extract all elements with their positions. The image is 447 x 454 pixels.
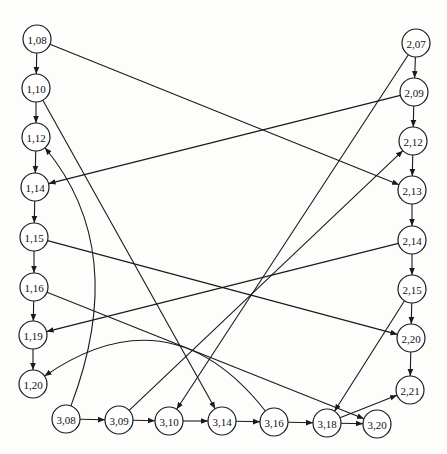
node-label: 3,16 xyxy=(264,417,284,429)
edge-1-08-to-2-13 xyxy=(50,44,399,185)
node-2-09: 2,09 xyxy=(400,78,428,106)
node-label: 2,12 xyxy=(403,136,422,148)
node-label: 3,20 xyxy=(367,419,387,431)
node-label: 1,20 xyxy=(23,379,43,391)
node-2-12: 2,12 xyxy=(399,127,427,155)
edge-2-15-to-3-18 xyxy=(334,301,404,411)
node-3-18: 3,18 xyxy=(313,409,341,437)
edge-3-08-to-1-12 xyxy=(45,148,95,406)
node-3-14: 3,14 xyxy=(208,407,236,435)
node-label: 2,15 xyxy=(402,284,422,296)
node-label: 3,09 xyxy=(109,415,129,427)
edge-3-16-to-1-20 xyxy=(45,340,266,411)
node-label: 2,21 xyxy=(400,385,419,397)
node-label: 2,09 xyxy=(404,87,424,99)
node-3-20: 3,20 xyxy=(363,410,391,438)
edge-1-10-to-3-14 xyxy=(43,100,215,409)
node-label: 2,13 xyxy=(402,185,422,197)
node-label: 1,19 xyxy=(23,330,43,342)
edge-2-14-to-1-19 xyxy=(47,243,399,331)
node-label: 1,10 xyxy=(26,83,46,95)
node-2-20: 2,20 xyxy=(397,324,425,352)
node-label: 2,07 xyxy=(406,38,426,50)
node-label: 1,14 xyxy=(25,182,45,194)
node-label: 1,08 xyxy=(27,34,47,46)
node-1-08: 1,08 xyxy=(23,25,51,53)
edge-2-07-to-3-10 xyxy=(177,55,409,410)
node-label: 2,14 xyxy=(402,235,422,247)
node-1-10: 1,10 xyxy=(22,74,50,102)
node-2-13: 2,13 xyxy=(398,176,426,204)
node-label: 3,10 xyxy=(159,416,179,428)
node-label: 3,14 xyxy=(212,416,232,428)
node-3-09: 3,09 xyxy=(105,406,133,434)
node-label: 2,20 xyxy=(401,333,421,345)
node-3-08: 3,08 xyxy=(52,405,80,433)
edge-2-07-to-2-09 xyxy=(415,57,416,78)
node-2-07: 2,07 xyxy=(402,29,430,57)
node-1-12: 1,12 xyxy=(22,123,50,151)
node-label: 3,18 xyxy=(317,418,337,430)
edge-3-09-to-2-12 xyxy=(129,151,403,411)
node-label: 3,08 xyxy=(56,414,76,426)
node-1-14: 1,14 xyxy=(21,173,49,201)
node-2-21: 2,21 xyxy=(396,376,424,404)
node-1-19: 1,19 xyxy=(19,321,47,349)
edge-2-09-to-1-14 xyxy=(49,95,401,183)
node-2-15: 2,15 xyxy=(398,275,426,303)
node-label: 1,15 xyxy=(24,232,44,244)
node-3-10: 3,10 xyxy=(155,407,183,435)
edges-layer xyxy=(33,44,415,423)
node-label: 1,12 xyxy=(26,132,45,144)
node-2-14: 2,14 xyxy=(398,226,426,254)
node-1-16: 1,16 xyxy=(20,273,48,301)
node-1-20: 1,20 xyxy=(19,370,47,398)
directed-graph: 1,081,101,121,141,151,161,191,202,072,09… xyxy=(0,0,447,454)
node-label: 1,16 xyxy=(24,282,44,294)
node-1-15: 1,15 xyxy=(20,223,48,251)
node-3-16: 3,16 xyxy=(260,408,288,436)
